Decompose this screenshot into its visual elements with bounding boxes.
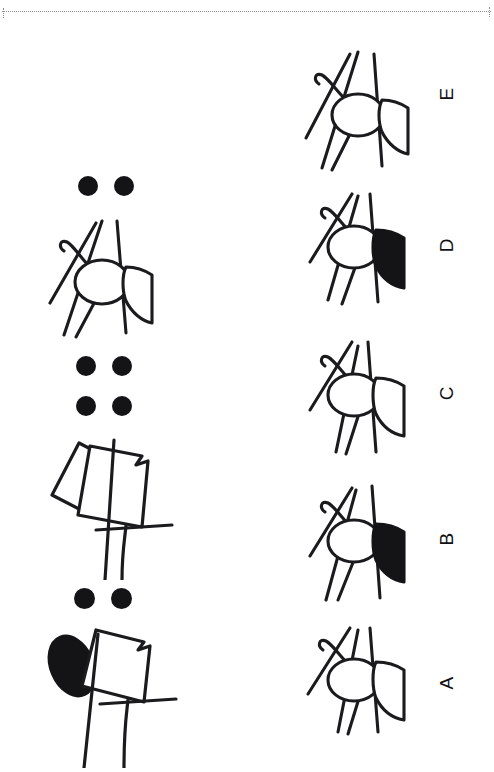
dot (76, 356, 96, 376)
stimulus-figure-2 (32, 430, 182, 580)
stimulus-figure-3 (34, 205, 174, 345)
test-page: E D (0, 0, 494, 772)
option-label-C: C (436, 380, 458, 406)
option-label-D: D (436, 232, 458, 258)
dot (112, 356, 132, 376)
option-label-B: B (436, 526, 458, 552)
dot (114, 176, 134, 196)
header-rule-tick-right (489, 7, 490, 17)
header-dotted-rule (2, 11, 491, 12)
dot (76, 396, 96, 416)
stimulus-3-dot-group (70, 170, 140, 200)
header-rule-tick-left (3, 8, 4, 18)
dot (78, 176, 98, 196)
option-label-A: A (436, 670, 458, 696)
stimulus-2-dot-group (68, 352, 144, 422)
option-figure-C[interactable] (292, 332, 428, 468)
option-label-E: E (436, 81, 458, 107)
option-figure-B[interactable] (292, 478, 428, 614)
stimulus-1-dot-group (66, 583, 142, 615)
stimulus-figure-1 (30, 618, 180, 768)
dot (74, 588, 95, 609)
dot (112, 396, 132, 416)
dot (111, 588, 132, 609)
option-figure-D[interactable] (292, 184, 428, 320)
option-figure-A[interactable] (292, 622, 428, 758)
option-figure-E[interactable] (292, 40, 428, 176)
